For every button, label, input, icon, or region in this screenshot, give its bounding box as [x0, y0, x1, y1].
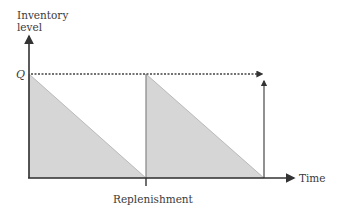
q-label: Q	[16, 68, 25, 81]
inventory-diagram: Inventory level Q Time Replenishment	[0, 0, 339, 219]
cycle-1-triangle	[29, 74, 146, 178]
x-axis-label: Time	[299, 172, 326, 184]
y-axis-label-line2: level	[17, 21, 43, 33]
y-axis-label-line1: Inventory	[17, 9, 68, 21]
cycle-2-triangle	[146, 74, 264, 178]
replenishment-label: Replenishment	[113, 193, 194, 205]
